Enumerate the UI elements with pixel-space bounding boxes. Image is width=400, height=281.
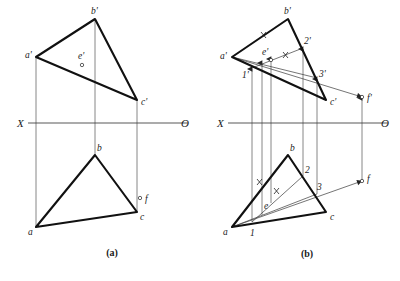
label-a-prime-b: a'	[220, 51, 228, 61]
label-b-a: b	[97, 143, 102, 153]
aux-line-1prime-2prime	[252, 48, 303, 68]
panel-b-front-aux	[232, 48, 362, 97]
label-a-prime-a: a'	[25, 50, 33, 60]
label-b-prime-a: b'	[91, 6, 99, 16]
panel-b-projectors	[252, 49, 362, 222]
label-2-b: 2	[305, 165, 310, 175]
point-e-prime-a	[80, 63, 83, 66]
point-f-b	[360, 179, 363, 182]
label-2-prime: 2'	[304, 36, 312, 46]
label-b-prime-b: b'	[284, 6, 292, 16]
aux-line-e-f	[232, 181, 362, 227]
point-e-prime-b	[269, 58, 272, 61]
axis-label-x-a: X	[16, 117, 25, 129]
panel-b-group: X O a' b' c' e' 1' 2' 3' f'	[216, 6, 389, 260]
label-f-b: f	[367, 174, 371, 184]
aux-line-eprime-fprime	[232, 57, 362, 97]
point-f-a	[138, 196, 141, 199]
label-1-b: 1	[250, 228, 255, 238]
caption-b: (b)	[301, 248, 313, 260]
caption-a: (a)	[106, 247, 118, 259]
label-a-a: a	[28, 227, 33, 237]
triangle-top-b	[232, 155, 326, 227]
axis-label-o-a: O	[181, 117, 189, 129]
aux-line-1-2	[252, 176, 303, 222]
label-f-a: f	[145, 194, 149, 204]
panel-a-group: X O e' a' b' c' f a b c (a)	[16, 6, 189, 259]
triangle-top-a	[36, 155, 137, 227]
triangle-front-a	[36, 19, 137, 100]
label-e-prime-a: e'	[78, 51, 85, 61]
axis-label-o-b: O	[381, 117, 389, 129]
triangle-front-b	[232, 19, 326, 100]
label-c-prime-b: c'	[330, 97, 337, 107]
label-e-prime-b: e'	[262, 47, 269, 57]
axis-label-x-b: X	[216, 117, 225, 129]
label-c-a: c	[140, 212, 145, 222]
label-3-prime: 3'	[318, 69, 327, 79]
label-e-b: e	[264, 201, 268, 211]
label-f-prime-b: f'	[367, 93, 373, 103]
descriptive-geometry-figure: X O e' a' b' c' f a b c (a)	[0, 0, 400, 281]
label-c-prime-a: c'	[141, 97, 148, 107]
panel-a-front-triangle	[36, 19, 137, 100]
point-f-prime-b	[360, 95, 363, 98]
label-c-b: c	[330, 212, 335, 222]
label-1-prime: 1'	[242, 70, 250, 80]
label-b-b: b	[290, 143, 295, 153]
label-3-b: 3	[316, 182, 322, 192]
label-a-b: a	[223, 227, 228, 237]
drawing-canvas: X O e' a' b' c' f a b c (a)	[0, 0, 400, 281]
panel-a-top-triangle	[36, 155, 137, 227]
